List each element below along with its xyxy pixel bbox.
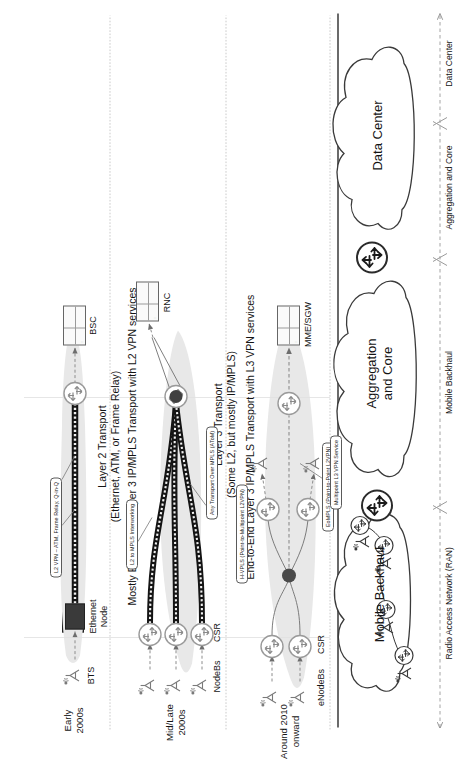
chassis-led-dots: : xyxy=(79,340,84,342)
callout-l2vpn-atm: L2 VPN – ATM, Frame Relay, Q-in-Q xyxy=(50,477,62,577)
device-label-ethernet-node: Ethernet Node xyxy=(88,591,110,641)
cloud-label-line1: Aggregation xyxy=(364,307,380,439)
zone-line1: Radio Access xyxy=(444,607,454,659)
chassis-led-dots: : xyxy=(293,340,298,342)
era-label-early2000s: Early 2000s xyxy=(62,691,86,749)
era-label-around2010: Around 2010 onward xyxy=(278,691,302,763)
rnc-chassis-icon: : xyxy=(136,281,159,321)
device-label-csr-new: CSR xyxy=(316,629,327,659)
csr-icon-n1 xyxy=(261,635,283,657)
band-caption-l2: Layer 2 Transport (Ethernet, ATM, or Fra… xyxy=(96,321,121,571)
device-label-bts: BTS xyxy=(86,661,97,689)
csr-icon-m3 xyxy=(191,623,213,645)
zone-label-ran: Radio Access Network (RAN) xyxy=(444,559,455,659)
band-line2: (Ethernet, ATM, or Frame Relay) xyxy=(109,321,122,571)
era-line2: 2000s xyxy=(176,691,188,753)
ran-router-icon-1 xyxy=(395,646,413,664)
enodeb-icon-1 xyxy=(260,692,276,706)
csr-icon-m1 xyxy=(139,623,161,645)
callout-atom: Any Transport Over MPLS (AToM) xyxy=(206,426,218,519)
era-line1: Mid/Late xyxy=(164,691,176,753)
zone-line2: Network (RAN) xyxy=(444,547,454,605)
era-line2: 2000s xyxy=(74,691,86,749)
ran-antenna-icon-1 xyxy=(395,668,411,682)
ran-antenna-icon-4 xyxy=(353,536,369,550)
callout-l2-mpls-iw: L2 to MPLS Interworking xyxy=(126,499,138,569)
core-router-icon-1 xyxy=(362,490,392,520)
zone-label-agg-core: Aggregation and Core xyxy=(444,125,455,249)
csr-icon-n3 xyxy=(257,498,279,520)
nodeb-icon-1 xyxy=(138,680,154,694)
cloud-label-aggregation-core: Aggregation and Core xyxy=(364,307,395,439)
era-line2: onward xyxy=(290,691,302,763)
pe-router-mme-icon xyxy=(278,392,300,414)
era-line1: Early xyxy=(62,691,74,749)
bts-icon xyxy=(63,670,79,684)
zone-label-dc: Data Center xyxy=(444,21,455,105)
device-label-nodebs: NodeBs xyxy=(212,653,223,699)
ran-router-icon-4 xyxy=(351,516,369,534)
chassis-led-dots: : xyxy=(152,316,157,318)
device-label-line2: Node xyxy=(99,591,110,641)
cloud-label-data-center: Data Center xyxy=(370,77,386,193)
device-label-enodebs: eNodeBs xyxy=(316,661,327,713)
zone-label-backhaul: Mobile Backhaul xyxy=(444,327,455,437)
cloud-label-mobile-backhaul: Mobile Backhaul xyxy=(372,529,388,659)
bsc-chassis-icon: : xyxy=(63,305,86,345)
callout-hvpls: H-VPLS (Point-to-Multipoint L2VPN) xyxy=(236,484,248,583)
era-label-midlate2000s: Mid/Late 2000s xyxy=(164,691,188,753)
device-label-rnc: RNC xyxy=(162,286,173,318)
core-router-icon-2 xyxy=(357,242,387,272)
enodeb-icon-4 xyxy=(303,458,319,472)
era-line1: Around 2010 xyxy=(278,691,290,763)
csr-icon-n2 xyxy=(289,635,311,657)
band-line1: Layer 2 Transport xyxy=(96,321,109,571)
csr-icon-n4 xyxy=(297,498,319,520)
cloud-label-line2: and Core xyxy=(380,307,396,439)
device-label-csr-mid: CSR xyxy=(212,617,223,647)
ethernet-node-icon xyxy=(65,603,85,629)
csr-icon-m2 xyxy=(165,623,187,645)
pe-router-bsc-icon xyxy=(64,382,86,404)
mme-sgw-chassis-icon: : xyxy=(277,305,300,345)
callout-l3vpn: Multipoint L3 VPN Service xyxy=(330,435,342,509)
device-label-line1: Ethernet xyxy=(88,591,99,641)
nodeb-icon-3 xyxy=(190,680,206,694)
device-label-mme-sgw: MME/SGW xyxy=(303,297,314,351)
